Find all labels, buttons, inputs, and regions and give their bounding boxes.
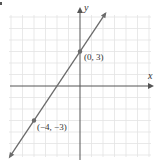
- y-axis-label: y: [84, 3, 88, 13]
- data-point: [32, 118, 36, 122]
- data-point: [78, 49, 82, 53]
- line-graph: [10, 14, 105, 157]
- y-axis-arrow-icon: [77, 7, 83, 13]
- axes: [10, 7, 154, 160]
- x-axis-arrow-icon: [148, 83, 154, 89]
- x-axis-label: x: [148, 71, 152, 81]
- line-arrow-down-icon: [9, 152, 14, 158]
- point-label-neg4-neg3: (−4, −3): [37, 123, 67, 132]
- point-label-0-3: (0, 3): [84, 53, 104, 62]
- coordinate-plane: [0, 0, 158, 168]
